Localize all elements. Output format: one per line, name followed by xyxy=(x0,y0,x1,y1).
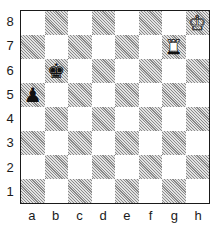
file-label-b: b xyxy=(44,208,68,223)
square-b1 xyxy=(45,179,69,203)
rank-label-5: 5 xyxy=(4,87,16,102)
chess-board: ♔♜♚♟ xyxy=(20,10,210,204)
square-e6 xyxy=(115,59,139,83)
square-e2 xyxy=(115,155,139,179)
file-label-h: h xyxy=(186,208,210,223)
square-e1 xyxy=(115,179,139,203)
square-e3 xyxy=(115,131,139,155)
square-a1 xyxy=(21,179,45,203)
square-c6 xyxy=(68,59,92,83)
square-f3 xyxy=(139,131,163,155)
square-h1 xyxy=(186,179,210,203)
file-label-f: f xyxy=(139,208,163,223)
square-g5 xyxy=(162,83,186,107)
file-label-e: e xyxy=(115,208,139,223)
square-h8: ♔ xyxy=(186,11,210,35)
square-a4 xyxy=(21,107,45,131)
rank-label-8: 8 xyxy=(4,14,16,29)
square-h5 xyxy=(186,83,210,107)
black-king-icon: ♚ xyxy=(47,61,65,81)
square-g7: ♜ xyxy=(162,35,186,59)
rank-label-3: 3 xyxy=(4,135,16,150)
square-d1 xyxy=(92,179,116,203)
square-a5: ♟ xyxy=(21,83,45,107)
square-a3 xyxy=(21,131,45,155)
square-b4 xyxy=(45,107,69,131)
square-f8 xyxy=(139,11,163,35)
square-g2 xyxy=(162,155,186,179)
white-king-icon: ♔ xyxy=(188,13,206,33)
square-c3 xyxy=(68,131,92,155)
square-c1 xyxy=(68,179,92,203)
square-c8 xyxy=(68,11,92,35)
square-e8 xyxy=(115,11,139,35)
square-e5 xyxy=(115,83,139,107)
black-pawn-icon: ♟ xyxy=(24,85,42,105)
square-c5 xyxy=(68,83,92,107)
square-f1 xyxy=(139,179,163,203)
rank-label-4: 4 xyxy=(4,111,16,126)
square-d2 xyxy=(92,155,116,179)
square-f2 xyxy=(139,155,163,179)
square-b7 xyxy=(45,35,69,59)
square-g3 xyxy=(162,131,186,155)
square-c4 xyxy=(68,107,92,131)
square-g4 xyxy=(162,107,186,131)
rank-label-1: 1 xyxy=(4,184,16,199)
square-b2 xyxy=(45,155,69,179)
file-label-g: g xyxy=(163,208,187,223)
square-h3 xyxy=(186,131,210,155)
square-b6: ♚ xyxy=(45,59,69,83)
square-a8 xyxy=(21,11,45,35)
file-label-d: d xyxy=(91,208,115,223)
square-d5 xyxy=(92,83,116,107)
square-a7 xyxy=(21,35,45,59)
rank-label-2: 2 xyxy=(4,160,16,175)
square-f6 xyxy=(139,59,163,83)
square-h4 xyxy=(186,107,210,131)
file-label-a: a xyxy=(20,208,44,223)
square-h2 xyxy=(186,155,210,179)
rank-label-6: 6 xyxy=(4,63,16,78)
square-b8 xyxy=(45,11,69,35)
rank-label-7: 7 xyxy=(4,38,16,53)
square-c7 xyxy=(68,35,92,59)
square-e7 xyxy=(115,35,139,59)
square-h6 xyxy=(186,59,210,83)
white-rook-icon: ♜ xyxy=(165,37,183,57)
square-a6 xyxy=(21,59,45,83)
square-b3 xyxy=(45,131,69,155)
square-c2 xyxy=(68,155,92,179)
square-d3 xyxy=(92,131,116,155)
square-a2 xyxy=(21,155,45,179)
square-f5 xyxy=(139,83,163,107)
square-d4 xyxy=(92,107,116,131)
square-d7 xyxy=(92,35,116,59)
square-b5 xyxy=(45,83,69,107)
square-f4 xyxy=(139,107,163,131)
square-g6 xyxy=(162,59,186,83)
square-g8 xyxy=(162,11,186,35)
square-d6 xyxy=(92,59,116,83)
square-e4 xyxy=(115,107,139,131)
square-h7 xyxy=(186,35,210,59)
square-f7 xyxy=(139,35,163,59)
square-g1 xyxy=(162,179,186,203)
square-d8 xyxy=(92,11,116,35)
file-label-c: c xyxy=(68,208,92,223)
